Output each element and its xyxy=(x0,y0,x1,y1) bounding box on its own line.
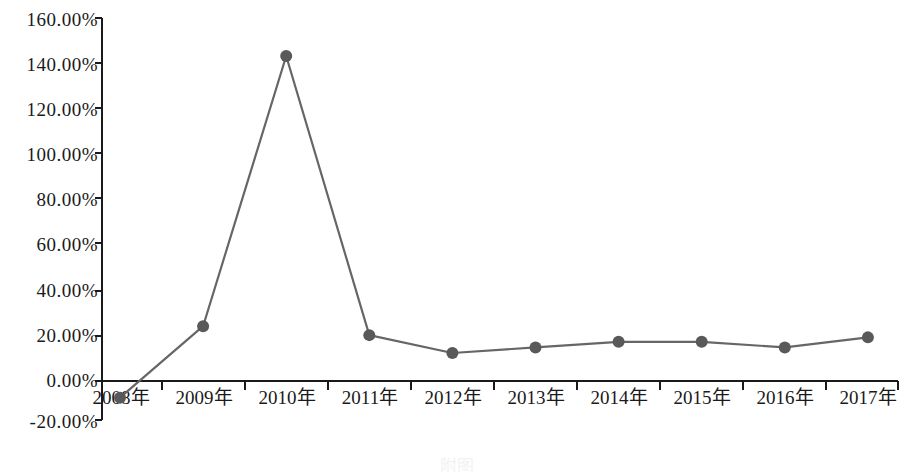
data-point-marker xyxy=(280,50,292,62)
data-point-marker xyxy=(779,341,791,353)
data-point-marker xyxy=(363,329,375,341)
plot-area xyxy=(0,0,913,472)
data-point-marker xyxy=(862,331,874,343)
data-series-line xyxy=(120,56,868,398)
data-point-marker xyxy=(613,336,625,348)
data-point-marker xyxy=(446,347,458,359)
y-axis-ticks xyxy=(95,18,102,420)
data-point-marker xyxy=(114,392,126,404)
data-point-marker xyxy=(696,336,708,348)
chart-container: 160.00% 140.00% 120.00% 100.00% 80.00% 6… xyxy=(0,0,913,472)
axes xyxy=(102,18,898,420)
x-axis-ticks xyxy=(162,381,898,390)
data-point-marker xyxy=(197,320,209,332)
data-point-marker xyxy=(530,341,542,353)
figure-caption: 附图 xyxy=(0,458,913,472)
